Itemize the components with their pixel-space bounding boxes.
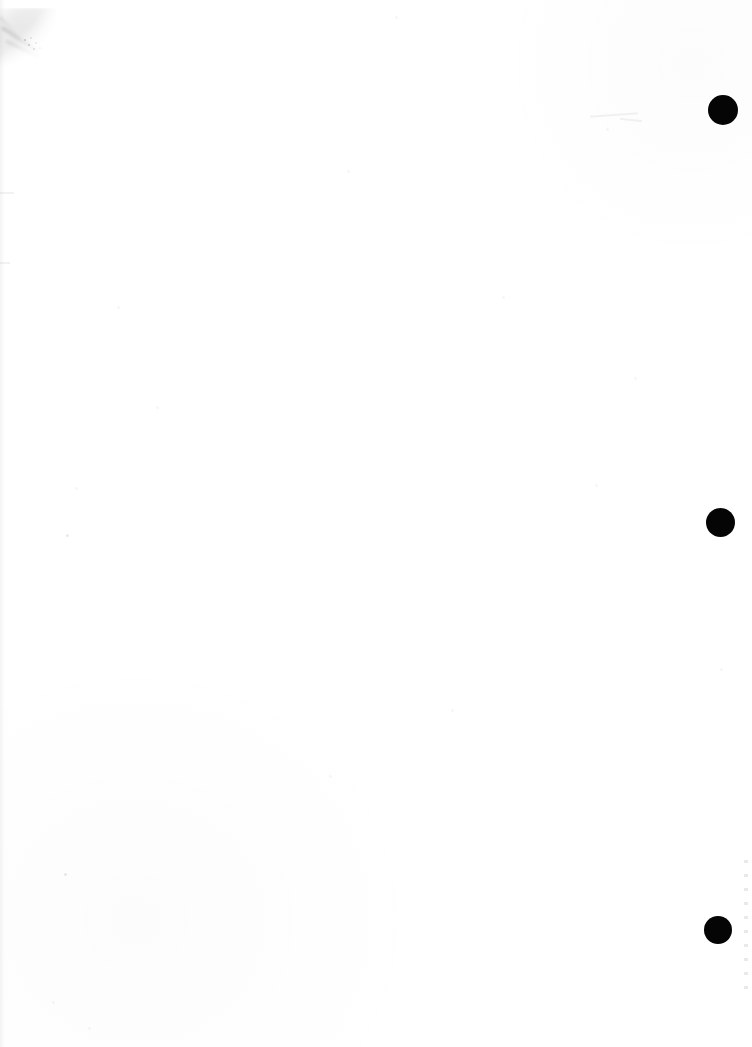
scanned-page [0,0,752,1047]
registration-dot-bottom [704,916,732,944]
registration-dot-top [708,95,738,125]
registration-dot-middle [706,508,735,537]
paper-background [0,0,752,1047]
